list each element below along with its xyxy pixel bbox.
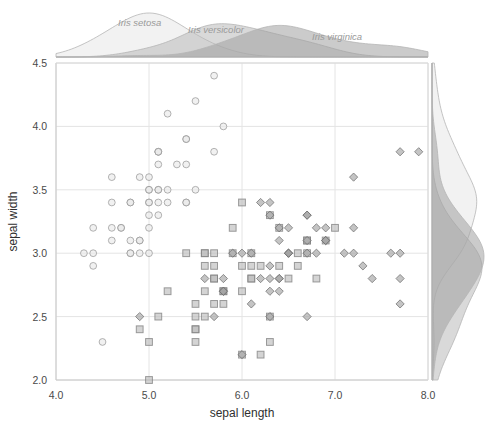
point-marker — [146, 250, 153, 257]
point-marker — [359, 262, 367, 270]
point-marker — [183, 136, 190, 143]
point-marker — [284, 249, 292, 257]
point-marker — [266, 198, 274, 206]
point-marker — [108, 174, 115, 181]
point-marker — [146, 339, 153, 346]
point-marker — [312, 249, 320, 257]
point-marker — [146, 212, 153, 219]
point-marker — [368, 274, 376, 282]
point-marker — [192, 326, 199, 333]
point-marker — [201, 288, 208, 295]
point-marker — [239, 199, 246, 206]
point-marker — [99, 339, 106, 346]
point-marker — [211, 275, 218, 282]
x-tick-label: 6.0 — [235, 389, 250, 401]
y-axis-title: sepal width — [6, 191, 20, 251]
x-tick-label: 8.0 — [421, 389, 436, 401]
point-marker — [136, 313, 144, 321]
point-marker — [332, 224, 339, 231]
point-marker — [340, 249, 348, 257]
point-marker — [285, 275, 292, 282]
point-marker — [313, 275, 320, 282]
point-marker — [164, 199, 171, 206]
point-marker — [238, 249, 246, 257]
y-tick-label: 2.0 — [32, 374, 47, 386]
point-marker — [257, 351, 264, 358]
point-marker — [220, 301, 227, 308]
point-marker — [220, 123, 227, 130]
point-marker — [146, 174, 153, 181]
point-marker — [211, 301, 218, 308]
point-marker — [108, 224, 115, 231]
point-marker — [294, 250, 301, 257]
point-marker — [81, 250, 88, 257]
point-marker — [266, 287, 274, 295]
point-marker — [415, 148, 423, 156]
chart-root: 2.02.53.03.54.04.54.05.06.07.08.0sepal l… — [0, 0, 490, 429]
point-marker — [174, 161, 181, 168]
point-marker — [127, 237, 134, 244]
x-axis-title: sepal length — [210, 406, 275, 420]
point-marker — [210, 313, 218, 321]
series-circle — [81, 72, 227, 345]
point-marker — [108, 199, 115, 206]
point-marker — [108, 237, 115, 244]
point-marker — [322, 224, 330, 232]
point-marker — [146, 186, 153, 193]
point-marker — [257, 198, 265, 206]
point-marker — [257, 274, 265, 282]
point-marker — [266, 274, 274, 282]
top-marginal-density — [56, 13, 428, 57]
point-marker — [396, 148, 404, 156]
point-marker — [155, 212, 162, 219]
right-marginal-density — [432, 63, 484, 380]
point-marker — [396, 300, 404, 308]
point-marker — [192, 313, 199, 320]
point-marker — [155, 148, 162, 155]
point-marker — [201, 274, 209, 282]
point-marker — [303, 211, 311, 219]
y-tick-label: 4.5 — [32, 57, 47, 69]
point-marker — [136, 326, 143, 333]
point-marker — [90, 262, 97, 269]
point-marker — [164, 186, 171, 193]
point-marker — [146, 377, 153, 384]
x-tick-label: 7.0 — [328, 389, 343, 401]
point-marker — [396, 249, 404, 257]
series-square — [136, 199, 338, 383]
y-tick-label: 3.0 — [32, 247, 47, 259]
x-tick-label: 4.0 — [49, 389, 64, 401]
point-marker — [136, 174, 143, 181]
point-marker — [90, 224, 97, 231]
point-marker — [284, 224, 292, 232]
point-marker — [387, 249, 395, 257]
point-marker — [192, 98, 199, 105]
point-marker — [239, 288, 246, 295]
point-marker — [350, 249, 358, 257]
point-marker — [267, 339, 274, 346]
iris-scatter-chart: 2.02.53.03.54.04.54.05.06.07.08.0sepal l… — [0, 0, 490, 429]
point-marker — [275, 274, 283, 282]
data-points — [81, 72, 423, 383]
point-marker — [136, 237, 143, 244]
point-marker — [257, 262, 264, 269]
point-marker — [192, 301, 199, 308]
point-marker — [211, 148, 218, 155]
point-marker — [350, 173, 358, 181]
point-marker — [276, 262, 283, 269]
series-label-square: Iris versicolor — [188, 24, 245, 35]
point-marker — [192, 186, 199, 193]
point-marker — [294, 262, 301, 269]
point-marker — [350, 224, 358, 232]
point-marker — [211, 262, 218, 269]
point-marker — [201, 313, 208, 320]
point-marker — [164, 110, 171, 117]
point-marker — [275, 236, 283, 244]
point-marker — [248, 275, 255, 282]
point-marker — [127, 199, 134, 206]
point-marker — [192, 339, 199, 346]
y-tick-label: 4.0 — [32, 120, 47, 132]
series-label-diamond: Iris virginica — [312, 31, 362, 42]
point-marker — [183, 161, 190, 168]
point-marker — [155, 161, 162, 168]
